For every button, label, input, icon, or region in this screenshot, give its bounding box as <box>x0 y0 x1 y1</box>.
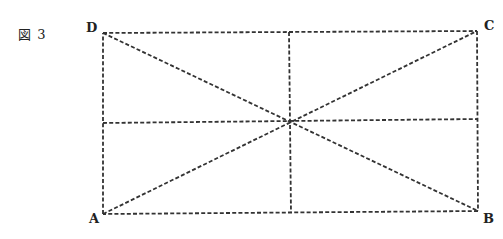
side-DC <box>103 31 477 33</box>
rectangle-diagram <box>0 0 503 239</box>
midline-vertical <box>289 32 291 213</box>
diagram-lines <box>103 31 478 214</box>
side-CB <box>477 31 478 211</box>
